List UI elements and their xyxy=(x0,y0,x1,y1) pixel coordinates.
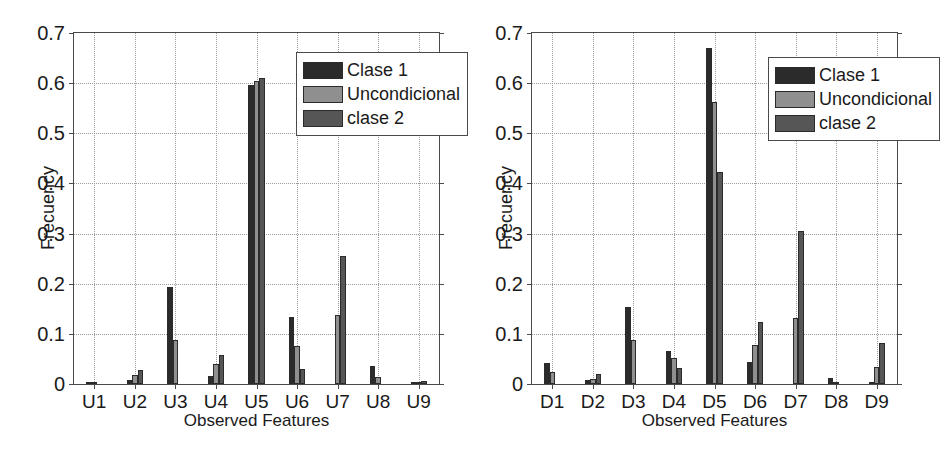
bar xyxy=(92,382,97,384)
y-tick-label: 0.1 xyxy=(495,322,523,345)
gridline-vertical xyxy=(135,33,136,384)
x-tick-label: U7 xyxy=(325,391,349,413)
legend-swatch-icon xyxy=(775,91,815,108)
legend-item[interactable]: clase 2 xyxy=(303,106,460,130)
bar xyxy=(879,343,884,384)
y-tick-mark xyxy=(69,183,74,184)
legend-item[interactable]: Clase 1 xyxy=(303,58,460,82)
y-tick-mark xyxy=(69,284,74,285)
y-tick-label: 0.3 xyxy=(495,222,523,245)
gridline-vertical xyxy=(216,33,217,384)
chart-panel-left: Frecuency Observed Features 00.10.20.30.… xyxy=(0,0,458,449)
x-tick-mark xyxy=(338,384,339,389)
bar xyxy=(138,370,143,384)
x-tick-label: D8 xyxy=(824,391,848,413)
gridline-vertical xyxy=(674,33,675,384)
x-axis-label-right: Observed Features xyxy=(531,411,898,431)
bar xyxy=(259,78,264,384)
y-tick-label: 0.4 xyxy=(495,172,523,195)
y-tick-label: 0.2 xyxy=(37,272,65,295)
y-tick-mark xyxy=(439,334,444,335)
gridline-vertical xyxy=(94,33,95,384)
x-tick-label: D5 xyxy=(702,391,726,413)
bar xyxy=(758,322,763,384)
x-tick-mark xyxy=(715,384,716,389)
y-tick-mark xyxy=(69,384,74,385)
x-tick-mark xyxy=(378,384,379,389)
y-tick-mark xyxy=(527,33,532,34)
legend-item[interactable]: clase 2 xyxy=(775,111,932,135)
legend-item-label: Clase 1 xyxy=(347,61,408,79)
y-tick-mark xyxy=(527,183,532,184)
y-tick-mark xyxy=(439,234,444,235)
x-tick-label: D3 xyxy=(621,391,645,413)
legend-item-label: clase 2 xyxy=(819,114,876,132)
x-tick-mark xyxy=(216,384,217,389)
x-tick-mark xyxy=(836,384,837,389)
legend-swatch-icon xyxy=(775,67,815,84)
x-tick-label: U2 xyxy=(123,391,147,413)
y-tick-mark xyxy=(527,284,532,285)
plot-area-left: 00.10.20.30.40.50.60.7U1U2U3U4U5U6U7U8U9… xyxy=(73,32,440,385)
y-tick-mark xyxy=(527,234,532,235)
legend-item-label: Uncondicional xyxy=(819,90,932,108)
y-tick-label: 0.4 xyxy=(37,172,65,195)
bar xyxy=(717,172,722,384)
y-tick-mark xyxy=(439,33,444,34)
bar xyxy=(798,231,803,384)
y-tick-mark xyxy=(527,384,532,385)
bar xyxy=(375,377,380,384)
gridline-vertical xyxy=(552,33,553,384)
y-tick-label: 0.7 xyxy=(495,22,523,45)
x-tick-mark xyxy=(419,384,420,389)
x-tick-mark xyxy=(877,384,878,389)
x-tick-label: D2 xyxy=(581,391,605,413)
x-tick-mark xyxy=(257,384,258,389)
bar xyxy=(219,355,224,384)
gridline-vertical xyxy=(175,33,176,384)
x-tick-label: U3 xyxy=(163,391,187,413)
y-tick-mark xyxy=(897,33,902,34)
bar xyxy=(300,369,305,384)
x-tick-label: U6 xyxy=(285,391,309,413)
x-tick-mark xyxy=(94,384,95,389)
x-tick-label: D4 xyxy=(662,391,686,413)
x-tick-mark xyxy=(552,384,553,389)
x-tick-label: D6 xyxy=(743,391,767,413)
y-tick-label: 0.5 xyxy=(495,122,523,145)
bar xyxy=(550,372,555,384)
y-tick-mark xyxy=(69,334,74,335)
gridline-vertical xyxy=(593,33,594,384)
bar xyxy=(173,340,178,384)
chart-legend[interactable]: Clase 1Uncondicionalclase 2 xyxy=(768,57,940,141)
bar xyxy=(631,340,636,384)
x-tick-label: D1 xyxy=(540,391,564,413)
bar xyxy=(833,382,838,385)
legend-swatch-icon xyxy=(775,115,815,132)
y-tick-mark xyxy=(897,234,902,235)
y-tick-mark xyxy=(897,334,902,335)
y-tick-mark xyxy=(439,284,444,285)
bar xyxy=(596,374,601,384)
x-tick-label: D7 xyxy=(783,391,807,413)
y-tick-label: 0 xyxy=(512,373,523,396)
y-tick-mark xyxy=(897,183,902,184)
legend-item[interactable]: Uncondicional xyxy=(303,82,460,106)
y-tick-label: 0.3 xyxy=(37,222,65,245)
y-tick-mark xyxy=(527,334,532,335)
x-tick-label: U9 xyxy=(407,391,431,413)
legend-swatch-icon xyxy=(303,110,343,127)
y-tick-label: 0 xyxy=(54,373,65,396)
legend-item[interactable]: Uncondicional xyxy=(775,87,932,111)
x-tick-label: D9 xyxy=(865,391,889,413)
legend-item-label: Uncondicional xyxy=(347,85,460,103)
x-tick-label: U8 xyxy=(366,391,390,413)
y-tick-mark xyxy=(69,33,74,34)
chart-legend[interactable]: Clase 1Uncondicionalclase 2 xyxy=(296,52,468,136)
x-tick-label: U5 xyxy=(244,391,268,413)
legend-item[interactable]: Clase 1 xyxy=(775,63,932,87)
x-tick-mark xyxy=(135,384,136,389)
bar xyxy=(677,368,682,384)
bar xyxy=(421,381,426,384)
